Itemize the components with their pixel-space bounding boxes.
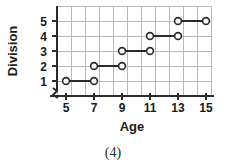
data-point: [147, 33, 154, 40]
step-chart-svg: 5 4 3 2 1 5 7 9 11 13 15: [0, 0, 226, 165]
data-point: [175, 18, 182, 25]
data-point: [119, 63, 126, 70]
y-tick-label: 3: [40, 45, 47, 59]
y-tick-label: 4: [40, 30, 47, 44]
x-tick-label: 5: [63, 101, 70, 115]
x-tick-label: 13: [171, 101, 185, 115]
y-tick-label: 5: [40, 15, 47, 29]
x-tick-label: 11: [144, 101, 157, 115]
x-axis-title: Age: [120, 119, 145, 134]
data-point: [203, 18, 210, 25]
data-point: [175, 33, 182, 40]
y-tick-label: 2: [40, 60, 47, 74]
data-point: [91, 63, 98, 70]
x-tick-label: 9: [119, 101, 126, 115]
y-axis-title: Division: [5, 26, 20, 77]
x-tick-label: 7: [91, 101, 98, 115]
data-point: [147, 48, 154, 55]
chart-figure: 5 4 3 2 1 5 7 9 11 13 15: [0, 0, 226, 165]
figure-caption: (4): [105, 145, 122, 161]
data-point: [63, 78, 70, 85]
data-point: [91, 78, 98, 85]
y-tick-label: 1: [40, 75, 47, 89]
data-point: [119, 48, 126, 55]
x-tick-label: 15: [199, 101, 213, 115]
